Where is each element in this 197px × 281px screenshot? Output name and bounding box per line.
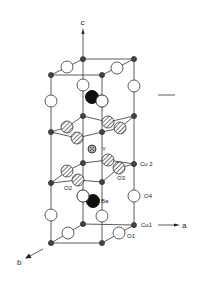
cu2-atom	[131, 161, 136, 166]
label-cu1: Cu1	[141, 222, 153, 228]
b-axis-label: b	[17, 258, 22, 267]
label-y: Y	[102, 146, 106, 152]
a-axis-label: a	[182, 221, 187, 230]
o4-atom	[128, 190, 140, 202]
cu-atom	[80, 221, 85, 226]
c-axis-arrowhead-icon	[82, 28, 85, 34]
cu-atom	[48, 240, 53, 245]
a-axis-arrowhead-icon	[174, 224, 180, 227]
label-o2: O2	[64, 185, 73, 191]
b-axis-arrow: b	[17, 249, 43, 267]
cu-atom	[131, 56, 136, 61]
c-axis-label: c	[81, 18, 85, 27]
cu-atom	[80, 56, 85, 61]
o-atom	[96, 210, 108, 222]
cu-atom	[48, 180, 53, 185]
o1-atom	[113, 227, 125, 239]
o-atom	[77, 190, 89, 202]
cu-atom	[48, 72, 53, 77]
o-atom	[61, 61, 73, 73]
o3-atom	[102, 116, 114, 128]
cu-atom	[99, 179, 104, 184]
c-axis: c	[81, 18, 85, 56]
label-ba: Ba	[101, 198, 109, 204]
cu1-atom	[131, 222, 136, 227]
cu-atom	[48, 129, 53, 134]
cu-atom	[80, 113, 85, 118]
yttrium-atom	[88, 145, 96, 153]
o2-atom	[71, 132, 83, 144]
o-atom	[128, 80, 140, 92]
o-atom	[45, 95, 57, 107]
o-atom	[77, 79, 89, 91]
o2-atom	[72, 174, 84, 186]
crystal-structure-diagram: c a	[0, 0, 197, 281]
o-atom	[62, 227, 74, 239]
label-o1: O1	[127, 233, 136, 239]
o3-atom	[113, 162, 125, 174]
cu-atom	[80, 160, 85, 165]
cu-atom	[131, 113, 136, 118]
a-axis-arrow: a	[158, 221, 187, 230]
o-atom	[96, 95, 108, 107]
o3-atom	[114, 122, 126, 134]
o-atom	[45, 209, 57, 221]
cu-atom	[99, 129, 104, 134]
cu-atom	[99, 72, 104, 77]
o2-atom	[61, 165, 73, 177]
label-o3: O3	[117, 175, 126, 181]
label-cu2: Cu 2	[140, 161, 153, 167]
o2-atom	[61, 121, 73, 133]
cu-atom	[99, 240, 104, 245]
label-o4: O4	[144, 193, 153, 199]
o-atom	[111, 62, 123, 74]
o3-atom	[102, 154, 114, 166]
